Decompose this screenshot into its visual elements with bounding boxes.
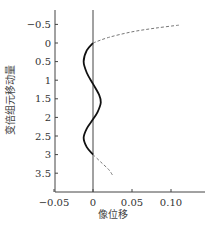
dashed-curve	[93, 25, 179, 43]
y-axis-title: 变倍组元移动量	[4, 65, 16, 135]
y-tick-label: 2.5	[35, 131, 51, 142]
x-tick-label: 0.05	[121, 197, 143, 208]
image-shift-chart: −0.500.511.522.533.5−0.0500.050.10 变倍组元移…	[0, 0, 208, 229]
x-tick-label: 0.10	[160, 197, 182, 208]
y-tick-label: 3.5	[35, 168, 51, 179]
solid-curve	[84, 43, 101, 155]
dashed-curve	[93, 155, 113, 175]
plot-area: −0.500.511.522.533.5−0.0500.050.10	[27, 10, 205, 208]
y-tick-label: 0	[45, 38, 51, 49]
x-tick-label: 0	[90, 197, 96, 208]
y-tick-label: 2	[45, 112, 51, 123]
x-tick-label: −0.05	[39, 197, 70, 208]
y-tick-label: 1.5	[35, 93, 51, 104]
y-tick-label: 0.5	[35, 56, 51, 67]
x-axis-title: 像位移	[98, 208, 128, 220]
y-tick-label: 1	[45, 75, 51, 86]
y-tick-label: 3	[45, 149, 51, 160]
y-tick-label: −0.5	[27, 19, 51, 30]
